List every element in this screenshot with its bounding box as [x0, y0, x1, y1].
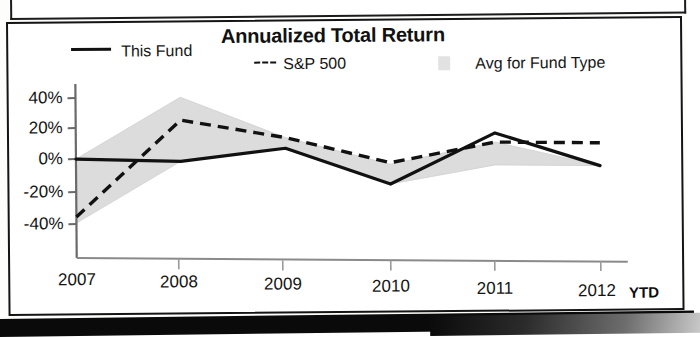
y-axis-label-neg40: -40% [0, 214, 64, 235]
x-axis-label-ytd: YTD [629, 283, 659, 300]
y-axis-label-20: 20% [0, 118, 63, 139]
plot-area: 40% 20% 0% -20% -40% 2007 2008 2009 2010… [0, 0, 687, 337]
x-axis-label-2009: 2009 [253, 274, 313, 294]
x-axis-label-2007: 2007 [47, 270, 107, 290]
y-axis-label-40: 40% [0, 88, 63, 109]
x-axis-label-2011: 2011 [465, 279, 525, 299]
x-axis-label-2010: 2010 [361, 276, 421, 296]
x-axis-label-2008: 2008 [149, 272, 209, 292]
page-bottom-bar-fade [430, 313, 700, 336]
avg-fund-type-band [75, 94, 600, 223]
y-axis-line [75, 84, 76, 258]
x-axis-line [77, 254, 628, 266]
y-axis-label-0: 0% [0, 149, 63, 170]
y-axis-label-neg20: -20% [0, 182, 63, 203]
x-axis-label-2012: 2012 [567, 281, 627, 301]
chart-content: Annualized Total Return This Fund S&P 50… [0, 0, 687, 337]
